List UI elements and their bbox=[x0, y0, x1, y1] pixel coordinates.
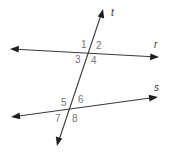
angle-label-7: 7 bbox=[55, 113, 61, 124]
angle-label-3: 3 bbox=[75, 54, 81, 65]
arrow-left-icon bbox=[10, 46, 19, 53]
angle-label-1: 1 bbox=[81, 39, 87, 50]
line-s: s bbox=[11, 82, 159, 119]
arrow-right-icon bbox=[149, 95, 158, 102]
line-label-r: r bbox=[154, 39, 158, 50]
arrow-right-icon bbox=[150, 54, 159, 61]
angle-label-2: 2 bbox=[96, 40, 102, 51]
transversal-diagram: r s t 1 2 3 4 5 6 7 8 bbox=[0, 0, 173, 159]
angle-label-8: 8 bbox=[72, 113, 78, 124]
arrow-down-icon bbox=[56, 137, 62, 147]
line-label-s: s bbox=[154, 82, 159, 93]
angle-label-5: 5 bbox=[61, 97, 67, 108]
angle-label-6: 6 bbox=[78, 94, 84, 105]
arrow-up-icon bbox=[98, 9, 104, 19]
line-label-t: t bbox=[111, 7, 115, 18]
arrow-left-icon bbox=[11, 113, 20, 120]
line-t: t bbox=[56, 7, 115, 146]
angle-label-4: 4 bbox=[91, 55, 97, 66]
